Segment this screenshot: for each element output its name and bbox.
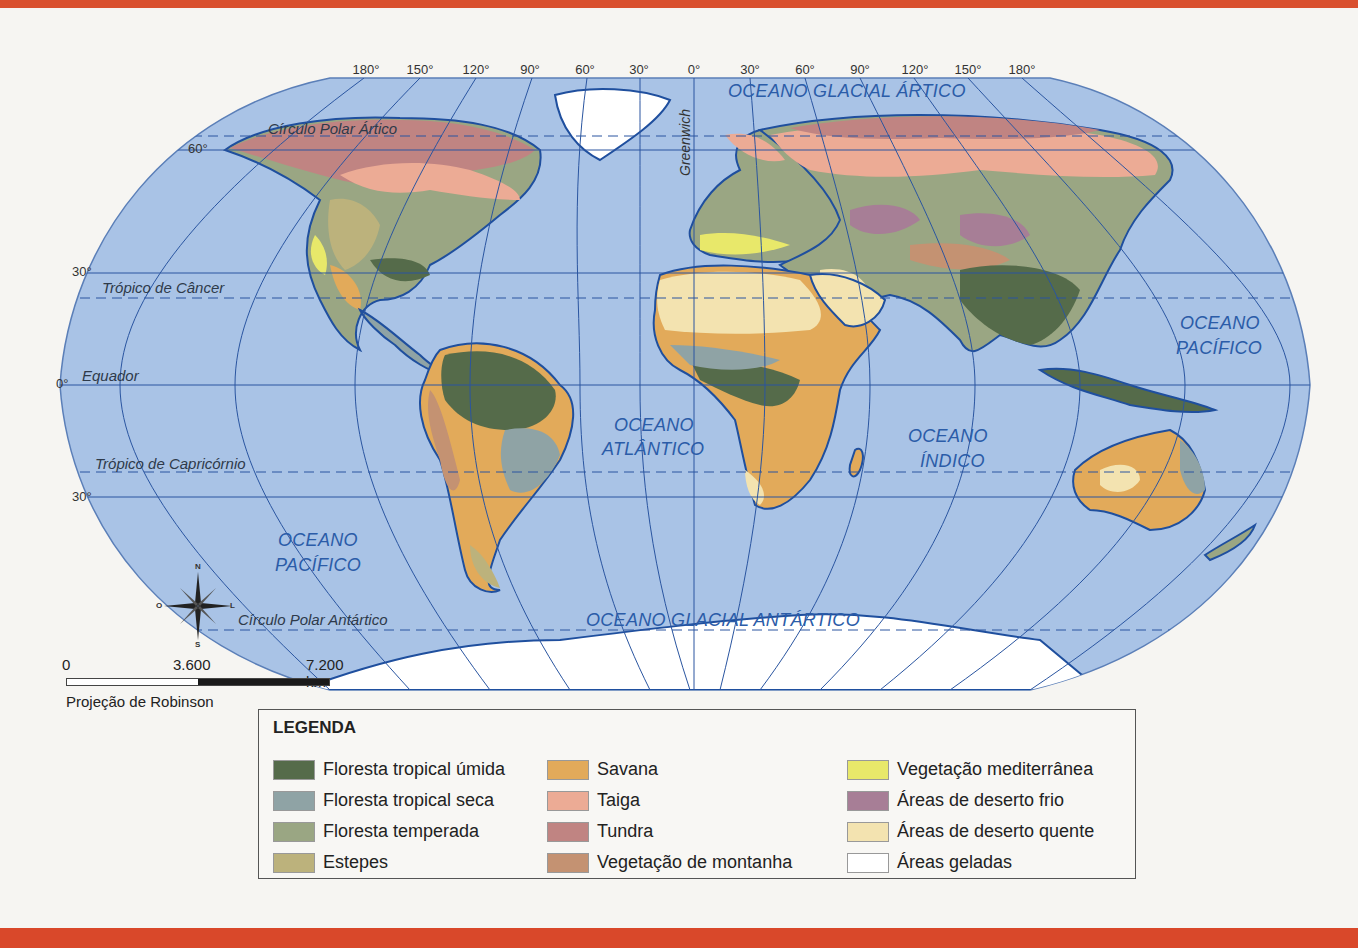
legend-item: Áreas geladas: [847, 847, 1094, 878]
legend-swatch: [847, 853, 889, 873]
lon-label-120w: 120°: [463, 62, 490, 77]
legend-item: Savana: [547, 754, 792, 785]
lon-label-90w: 90°: [520, 62, 540, 77]
lon-label-30e: 30°: [740, 62, 760, 77]
lat-label-60n: 60°: [188, 141, 208, 156]
atlantic-ocean-label-1: OCEANO: [614, 414, 694, 436]
legend-title: LEGENDA: [273, 718, 356, 738]
tropic-capricorn-label: Trópico de Capricórnio: [95, 455, 246, 472]
legend-item: Vegetação mediterrânea: [847, 754, 1094, 785]
projection-label: Projeção de Robinson: [66, 693, 214, 710]
legend-column-2: Savana Taiga Tundra Vegetação de montanh…: [547, 754, 792, 878]
lon-label-0: 0°: [688, 62, 700, 77]
lon-label-150e: 150°: [955, 62, 982, 77]
pacific-ocean-west-label-1: OCEANO: [278, 529, 358, 551]
lon-label-90e: 90°: [850, 62, 870, 77]
lat-label-0: 0°: [56, 376, 68, 391]
lon-label-180e: 180°: [1009, 62, 1036, 77]
compass-rose: N S O L: [158, 566, 238, 646]
lon-label-180w: 180°: [353, 62, 380, 77]
equator-label: Equador: [82, 367, 139, 384]
pacific-ocean-west-label-2: PACÍFICO: [275, 554, 361, 576]
greenwich-label: Greenwich: [677, 109, 693, 176]
pacific-ocean-east-label-2: PACÍFICO: [1176, 337, 1262, 359]
arctic-ocean-label: OCEANO GLACIAL ÁRTICO: [728, 80, 966, 102]
legend-column-3: Vegetação mediterrânea Áreas de deserto …: [847, 754, 1094, 878]
scale-bar-graphic: [66, 678, 330, 686]
lon-label-120e: 120°: [902, 62, 929, 77]
legend-swatch: [847, 791, 889, 811]
tropic-cancer-label: Trópico de Câncer: [102, 279, 224, 296]
atlantic-ocean-label-2: ATLÂNTICO: [602, 438, 704, 460]
legend-swatch: [273, 853, 315, 873]
indian-ocean-label-2: ÍNDICO: [920, 450, 985, 472]
legend-item: Áreas de deserto frio: [847, 785, 1094, 816]
legend-swatch: [547, 760, 589, 780]
lat-label-30s: 30°: [72, 489, 92, 504]
legend-item: Floresta tropical seca: [273, 785, 505, 816]
legend-item: Taiga: [547, 785, 792, 816]
compass-west: O: [156, 601, 162, 610]
scale-start: 0: [62, 656, 70, 673]
indian-ocean-label-1: OCEANO: [908, 425, 988, 447]
legend-swatch: [847, 822, 889, 842]
lon-label-150w: 150°: [407, 62, 434, 77]
legend-swatch: [273, 791, 315, 811]
legend-item: Floresta temperada: [273, 816, 505, 847]
legend-swatch: [547, 822, 589, 842]
compass-south: S: [195, 640, 200, 649]
compass-star-icon: [158, 566, 238, 646]
legend-item: Tundra: [547, 816, 792, 847]
antarctic-circle-label: Círculo Polar Antártico: [238, 611, 388, 628]
scale-mid: 3.600: [173, 656, 211, 673]
pacific-ocean-east-label-1: OCEANO: [1180, 312, 1260, 334]
legend-swatch: [273, 760, 315, 780]
lat-label-30n: 30°: [72, 264, 92, 279]
legend-swatch: [273, 822, 315, 842]
legend: LEGENDA Floresta tropical úmida Floresta…: [258, 709, 1136, 879]
arctic-circle-label: Círculo Polar Ártico: [268, 120, 397, 137]
compass-east: L: [230, 601, 235, 610]
legend-swatch: [547, 853, 589, 873]
lon-label-60e: 60°: [795, 62, 815, 77]
antarctic-ocean-label: OCEANO GLACIAL ANTÁRTICO: [586, 609, 860, 631]
legend-item: Estepes: [273, 847, 505, 878]
legend-column-1: Floresta tropical úmida Floresta tropica…: [273, 754, 505, 878]
lon-label-60w: 60°: [575, 62, 595, 77]
legend-swatch: [847, 760, 889, 780]
legend-item: Áreas de deserto quente: [847, 816, 1094, 847]
legend-item: Floresta tropical úmida: [273, 754, 505, 785]
lon-label-30w: 30°: [629, 62, 649, 77]
legend-item: Vegetação de montanha: [547, 847, 792, 878]
legend-swatch: [547, 791, 589, 811]
compass-north: N: [195, 562, 201, 571]
